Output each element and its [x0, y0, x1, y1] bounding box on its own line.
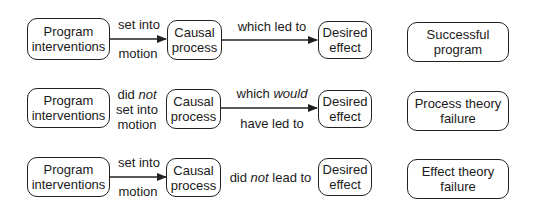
- node-desired-effect-row2: Desiredeffect: [318, 90, 372, 128]
- node-outcome-effect-theory-failure: Effect theoryfailure: [407, 159, 509, 199]
- node-desired-effect-row3: Desiredeffect: [318, 158, 372, 196]
- label-set-into-row3: set into: [118, 155, 158, 170]
- node-causal-process-row3: Causalprocess: [166, 158, 221, 197]
- label-did-not-lead-to-row3: did not lead to: [228, 170, 313, 185]
- label-have-led-to-row2: have led to: [232, 116, 312, 131]
- node-outcome-successful-program: Successfulprogram: [407, 22, 509, 62]
- node-outcome-process-theory-failure: Process theoryfailure: [407, 91, 509, 131]
- label-set-into-row1: set into: [118, 17, 158, 32]
- node-program-interventions-row2: Programinterventions: [27, 88, 110, 128]
- label-motion-row1: motion: [118, 46, 158, 61]
- node-program-interventions-row1: Programinterventions: [27, 18, 110, 60]
- node-program-interventions-row3: Programinterventions: [27, 157, 110, 197]
- node-causal-process-row1: Causalprocess: [167, 20, 222, 60]
- label-which-would-row2: which would: [232, 86, 312, 101]
- label-motion-row3: motion: [118, 184, 158, 199]
- label-did-not-set-into-motion-row2: did not set into motion: [112, 87, 162, 132]
- label-which-led-to-row1: which led to: [232, 19, 312, 34]
- node-desired-effect-row1: Desiredeffect: [318, 21, 372, 59]
- node-causal-process-row2: Causalprocess: [166, 89, 221, 129]
